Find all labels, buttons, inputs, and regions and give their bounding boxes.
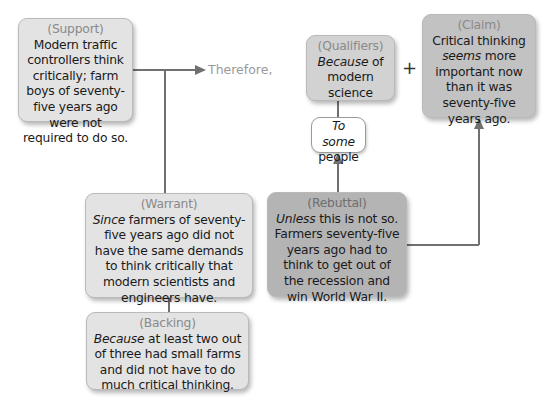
qualifiers-label: (Qualifiers) (311, 39, 390, 55)
qualifiers-italic-lead: Because (318, 55, 369, 69)
to-some-people-text: people (318, 150, 358, 164)
rebuttal-box: (Rebuttal) Unless this is not so. Farmer… (267, 192, 407, 297)
to-some-people-italic-lead: To some (322, 119, 355, 149)
to-some-people-box: To some people (311, 117, 366, 153)
rebuttal-to-claim-vertical-line (478, 128, 480, 245)
qualifier-to-somepeople-line (337, 100, 339, 118)
warrant-label: (Warrant) (92, 197, 246, 213)
rebuttal-to-claim-horizontal-line (407, 244, 479, 246)
rebuttal-to-somepeople-line (337, 163, 339, 193)
rebuttal-italic-lead: Unless (276, 212, 315, 226)
support-label: (Support) (23, 22, 128, 38)
support-box: (Support) Modern traffic controllers thi… (18, 18, 133, 122)
rebuttal-label: (Rebuttal) (272, 196, 402, 212)
backing-italic-lead: Because (94, 332, 145, 346)
warrant-box: (Warrant) Since farmers of seventy-five … (85, 193, 253, 298)
claim-text-pre: Critical thinking (432, 34, 525, 48)
support-text: Modern traffic controllers think critica… (23, 38, 128, 146)
qualifiers-box: (Qualifiers) Because of modern science (306, 35, 395, 101)
therefore-label: Therefore, (208, 62, 272, 77)
backing-label: (Backing) (93, 316, 242, 332)
warrant-connector-line (164, 69, 166, 193)
backing-box: (Backing) Because at least two out of th… (86, 312, 249, 390)
claim-label: (Claim) (427, 18, 531, 34)
plus-sign: + (402, 57, 417, 78)
claim-italic-word: seems (442, 49, 481, 63)
warrant-italic-lead: Since (93, 213, 125, 227)
claim-box: (Claim) Critical thinking seems more imp… (422, 14, 536, 118)
therefore-arrow-icon (195, 65, 206, 75)
